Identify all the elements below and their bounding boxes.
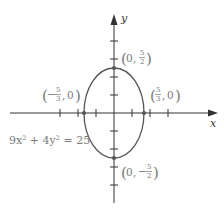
y-axis-arrow-icon (111, 14, 118, 25)
svg-text:0: 0 (167, 89, 174, 101)
svg-text:): ) (75, 87, 81, 105)
x-axis-arrow-icon (208, 110, 218, 117)
svg-text:5: 5 (56, 86, 60, 94)
svg-text:,: , (133, 166, 136, 178)
svg-text:0: 0 (126, 52, 133, 64)
vertex-left-point (82, 111, 86, 115)
svg-text:0: 0 (126, 166, 133, 178)
x-axis-label: x (210, 117, 217, 130)
svg-text:(: ( (150, 87, 156, 105)
svg-text:): ) (153, 164, 159, 182)
y-axis-label: y (120, 12, 128, 25)
svg-text:3: 3 (56, 95, 60, 103)
vertex-bottom-label: ( 0 , − 5 2 ) (121, 163, 159, 182)
vertex-top-label: ( 0 , 5 2 ) (121, 49, 152, 68)
svg-text:−: − (138, 165, 147, 177)
svg-text:): ) (146, 50, 152, 68)
svg-text:3: 3 (156, 95, 160, 103)
svg-text:): ) (175, 87, 181, 105)
svg-text:5: 5 (156, 86, 160, 94)
svg-text:2: 2 (140, 58, 144, 66)
vertex-right-point (142, 111, 146, 115)
svg-text:0: 0 (67, 89, 74, 101)
vertex-bottom-point (112, 156, 116, 160)
ellipse-diagram: x y ( 0 , 5 2 ) ( (0, 0, 224, 212)
vertex-top-point (112, 66, 116, 70)
vertex-right-label: ( 5 3 , 0 ) (150, 86, 181, 105)
svg-text:−: − (47, 88, 56, 100)
vertex-left-label: ( − 5 3 , 0 ) (42, 86, 81, 105)
svg-text:5: 5 (140, 49, 144, 57)
svg-text:,: , (133, 52, 136, 64)
svg-text:5: 5 (147, 163, 151, 171)
svg-text:2: 2 (147, 172, 151, 180)
svg-text:,: , (162, 89, 165, 101)
svg-text:,: , (62, 89, 65, 101)
equation-label: 9x2 + 4y2 = 25 (9, 134, 90, 147)
